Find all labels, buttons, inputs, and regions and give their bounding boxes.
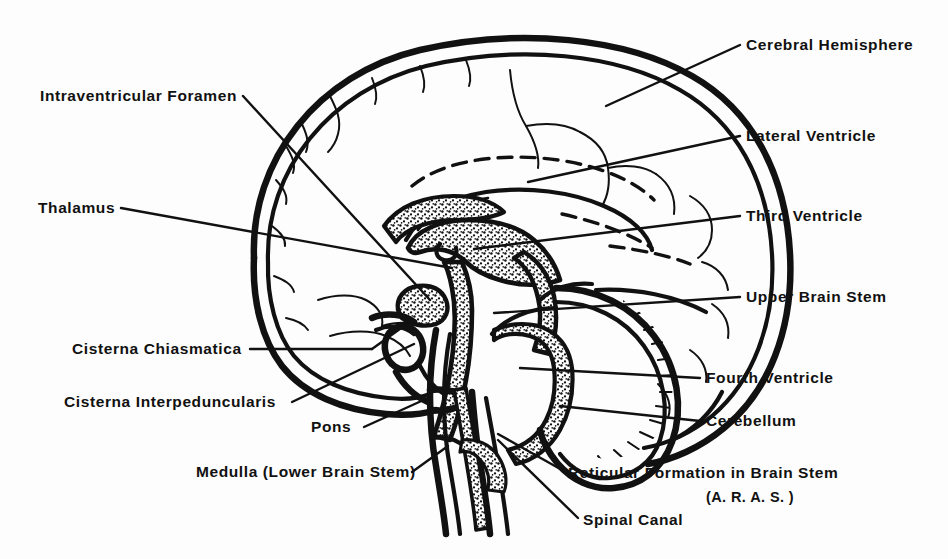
label-cerebral-hemisphere: Cerebral Hemisphere <box>746 36 913 53</box>
label-third-ventricle: Third Ventricle <box>746 207 863 224</box>
fourth-ventricle <box>492 308 573 464</box>
label-medulla-lower-brain-stem: Medulla (Lower Brain Stem) <box>196 463 416 480</box>
diagram-canvas: Intraventricular Foramen Thalamus Cister… <box>0 0 948 559</box>
label-lateral-ventricle: Lateral Ventricle <box>746 127 876 144</box>
label-intraventricular-foramen: Intraventricular Foramen <box>40 87 237 104</box>
label-cisterna-interpeduncularis: Cisterna Interpeduncularis <box>64 393 276 410</box>
label-spinal-canal: Spinal Canal <box>583 511 683 528</box>
label-cerebellum: Cerebellum <box>706 412 796 429</box>
label-pons: Pons <box>311 418 351 435</box>
label-reticular-formation-aras: (A. R. A. S. ) <box>706 489 794 505</box>
leader-intraventricular-foramen <box>243 96 430 300</box>
label-group-left: Intraventricular Foramen Thalamus Cister… <box>38 87 416 480</box>
label-cisterna-chiasmatica: Cisterna Chiasmatica <box>72 340 242 357</box>
leader-medulla <box>412 446 448 472</box>
label-fourth-ventricle: Fourth Ventricle <box>706 369 834 386</box>
label-upper-brain-stem: Upper Brain Stem <box>746 288 887 305</box>
brain-anatomy-diagram: Intraventricular Foramen Thalamus Cister… <box>0 0 948 559</box>
label-thalamus: Thalamus <box>38 199 115 216</box>
label-reticular-formation: Reticular Formation in Brain Stem <box>568 464 838 481</box>
leader-lateral-ventricle <box>528 136 740 182</box>
